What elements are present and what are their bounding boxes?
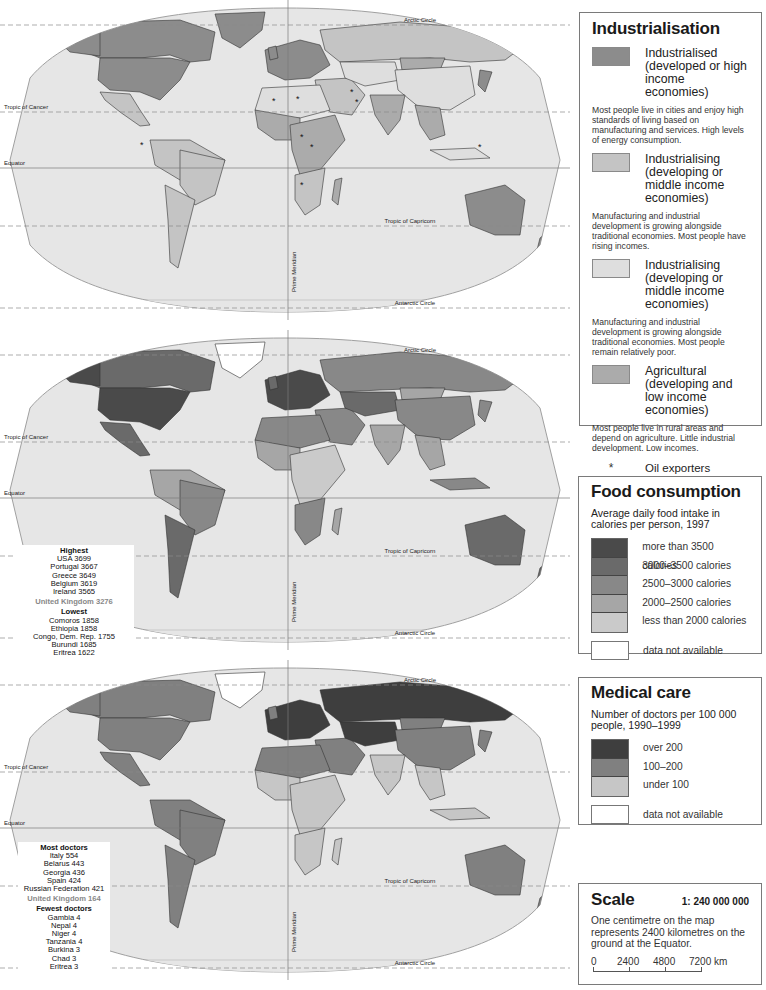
- oil-exporter-icon: *: [296, 94, 300, 104]
- legend-description: Most people live in cities and enjoy hig…: [592, 105, 749, 145]
- scale-bar: 0 2400 4800 7200 km: [591, 956, 703, 980]
- legend-label: under 100: [643, 776, 689, 795]
- legend-swatch: [592, 759, 628, 778]
- legend-label: Industrialised (developed or high income…: [645, 47, 749, 99]
- scale-tick-label: 7200 km: [689, 956, 727, 967]
- oil-exporter-icon: *: [300, 180, 304, 190]
- equator-label: Equator: [4, 820, 25, 826]
- legend-swatch: [592, 47, 630, 66]
- oil-exporter-icon: *: [140, 140, 144, 150]
- scale-tick: [701, 967, 702, 972]
- scale-tick: [593, 967, 594, 972]
- oil-exporter-icon: *: [300, 132, 304, 142]
- legend-title: Food consumption: [591, 482, 749, 502]
- pm-label: Prime Meridian: [291, 582, 297, 622]
- cancer-label: Tropic of Cancer: [4, 764, 48, 770]
- arctic-label: Arctic Circle: [404, 17, 437, 23]
- scale-description: One centimetre on the map represents 240…: [591, 915, 749, 950]
- legend-title: Medical care: [591, 683, 749, 703]
- country-russia: [320, 682, 525, 722]
- legend-description: Manufacturing and industrial development…: [592, 317, 749, 357]
- legend-item-agricultural: Agricultural (developing and low income …: [592, 365, 749, 417]
- oil-exporter-icon: *: [478, 142, 482, 152]
- pm-label: Prime Meridian: [291, 252, 297, 292]
- scale-tick: [665, 967, 666, 972]
- legend-item-no-data: data not available: [591, 805, 749, 824]
- country-uk: [268, 706, 278, 720]
- industrialisation-map: Arctic Circle Tropic of Cancer Equator T…: [0, 0, 570, 320]
- legend-item-industrialising-poor: Industrialising (developing or middle in…: [592, 259, 749, 311]
- legend-label: Agricultural (developing and low income …: [645, 365, 749, 417]
- legend-label: Oil exporters: [645, 462, 710, 474]
- legend-swatch: [592, 259, 630, 278]
- legend-item-oil-exporters: * Oil exporters: [592, 461, 749, 475]
- country-uk: [268, 46, 278, 60]
- arctic-label: Arctic Circle: [404, 347, 437, 353]
- legend-label: Industrialising (developing or middle in…: [645, 153, 749, 205]
- legend-label: 3000–3500 calories: [642, 557, 749, 576]
- legend-label: 2000–2500 calories: [642, 594, 749, 613]
- oil-exporter-icon: *: [272, 96, 276, 106]
- antarctic-label: Antarctic Circle: [395, 960, 436, 966]
- legend-title: Industrialisation: [592, 19, 749, 39]
- legend-swatch: [592, 539, 627, 558]
- oil-exporter-icon: *: [355, 97, 359, 107]
- uk-value: United Kingdom 3276: [14, 598, 134, 606]
- legend-swatch: [592, 595, 627, 614]
- capricorn-label: Tropic of Capricorn: [385, 878, 436, 884]
- color-ramp: over 200 100–200 under 100: [591, 739, 749, 797]
- oil-exporter-icon: *: [310, 142, 314, 152]
- arctic-label: Arctic Circle: [404, 677, 437, 683]
- country-russia: [320, 352, 525, 392]
- legend-swatch: [592, 365, 630, 384]
- capricorn-label: Tropic of Capricorn: [385, 218, 436, 224]
- pm-label: Prime Meridian: [291, 912, 297, 952]
- legend-label: data not available: [643, 809, 723, 820]
- legend-swatch: [592, 613, 627, 632]
- equator-label: Equator: [4, 490, 25, 496]
- antarctic-label: Antarctic Circle: [395, 630, 436, 636]
- scale-tick-label: 0: [591, 956, 597, 967]
- legend-item-no-data: data not available: [591, 641, 749, 660]
- scale-title: Scale: [591, 890, 634, 910]
- scale-tick-label: 4800: [653, 956, 675, 967]
- highest-item: Russian Federation 421: [18, 885, 110, 893]
- legend-swatch: [592, 777, 628, 796]
- color-ramp: more than 3500 calories 3000–3500 calori…: [591, 538, 749, 633]
- legend-label: less than 2000 calories: [642, 612, 749, 631]
- oil-exporter-icon: *: [350, 87, 354, 97]
- scale-legend: Scale 1: 240 000 000 One centimetre on t…: [578, 883, 762, 985]
- medical-ranking-box: Most doctors Italy 554 Belarus 443 Georg…: [18, 842, 110, 973]
- legend-swatch: [592, 740, 628, 759]
- uk-value: United Kingdom 164: [18, 895, 110, 903]
- scale-tick-label: 2400: [617, 956, 639, 967]
- scale-line: [593, 971, 701, 972]
- scale-ratio: 1: 240 000 000: [682, 896, 749, 907]
- legend-item-industrialised: Industrialised (developed or high income…: [592, 47, 749, 99]
- legend-subtitle: Number of doctors per 100 000 people, 19…: [591, 709, 749, 731]
- legend-subtitle: Average daily food intake in calories pe…: [591, 508, 749, 530]
- world-map: Arctic Circle Tropic of Cancer Equator T…: [0, 0, 570, 320]
- antarctic-label: Antarctic Circle: [395, 300, 436, 306]
- legend-label: 2500–3000 calories: [642, 575, 749, 594]
- food-ranking-box: Highest USA 3699 Portugal 3667 Greece 36…: [14, 545, 134, 660]
- lowest-item: Eritrea 1622: [14, 649, 134, 657]
- legend-label: Industrialising (developing or middle in…: [645, 259, 749, 311]
- capricorn-label: Tropic of Capricorn: [385, 548, 436, 554]
- legend-swatch: [591, 641, 629, 660]
- food-consumption-legend: Food consumption Average daily food inta…: [578, 476, 762, 654]
- legend-swatch: [591, 805, 629, 824]
- legend-description: Manufacturing and industrial development…: [592, 211, 749, 251]
- scale-tick: [629, 967, 630, 972]
- legend-swatch: [592, 576, 627, 595]
- legend-description: Most people live in rural areas and depe…: [592, 423, 749, 453]
- legend-label: data not available: [643, 645, 723, 656]
- lowest-item: Eritrea 3: [18, 963, 110, 971]
- legend-item-industrialising-rising: Industrialising (developing or middle in…: [592, 153, 749, 205]
- industrialisation-legend: Industrialisation Industrialised (develo…: [579, 12, 762, 426]
- legend-swatch: [592, 558, 627, 577]
- cancer-label: Tropic of Cancer: [4, 434, 48, 440]
- country-russia: [320, 22, 525, 62]
- equator-label: Equator: [4, 160, 25, 166]
- medical-care-legend: Medical care Number of doctors per 100 0…: [578, 677, 762, 825]
